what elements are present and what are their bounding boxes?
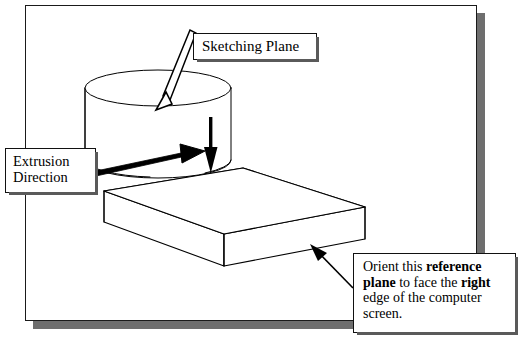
sketching-plane-label-text: Sketching Plane (202, 38, 299, 54)
orient-line-1: Orient this reference (363, 259, 509, 275)
orient-line-2-text: to face the (396, 275, 461, 290)
orient-callout-arrow (310, 244, 353, 288)
figure-canvas: Sketching Plane Extrusion Direction Orie… (0, 0, 519, 339)
orient-line-4: screen. (363, 306, 509, 322)
cylinder-top-ellipse-sketching-plane (85, 70, 231, 106)
orient-line-3: edge of the computer (363, 290, 509, 306)
sketching-plane-label: Sketching Plane (193, 33, 317, 60)
extrusion-direction-line-1: Extrusion (13, 153, 95, 169)
orient-line-1-text: Orient this (363, 259, 426, 274)
orient-line-2-bold-2: right (461, 275, 491, 290)
orient-line-1-bold: reference (426, 259, 481, 274)
orient-line-2: plane to face the right (363, 275, 509, 291)
orient-reference-plane-label: Orient this reference plane to face the … (353, 253, 516, 333)
extrusion-direction-label: Extrusion Direction (5, 148, 96, 193)
extrusion-direction-line-2: Direction (13, 169, 95, 185)
orient-line-2-bold-1: plane (363, 275, 396, 290)
